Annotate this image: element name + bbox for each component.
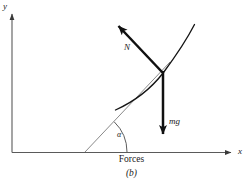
forces-figure: y x N mg α Forces (b) [0, 0, 247, 184]
weight-label: mg [169, 117, 180, 126]
incline-reference-line [85, 62, 170, 152]
y-axis-label: y [3, 2, 7, 11]
angle-label: α [117, 131, 121, 139]
surface-curve [116, 25, 195, 111]
figure-caption-subtitle: (b) [0, 169, 247, 179]
figure-caption-title: Forces [0, 155, 247, 165]
normal-force-label: N [124, 43, 130, 52]
